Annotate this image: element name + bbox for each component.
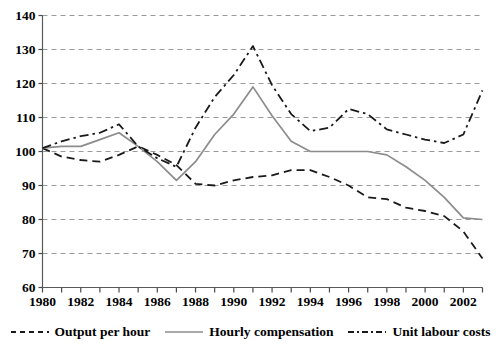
line-chart-plot [0, 0, 500, 344]
legend-label: Output per hour [55, 324, 151, 340]
series-line-unit-labour-costs [43, 46, 483, 167]
legend-item-output-per-hour: Output per hour [10, 324, 151, 340]
y-tick-label: 60 [22, 281, 36, 295]
gridlines-group [43, 16, 483, 254]
y-tick-label: 110 [16, 111, 36, 125]
legend-swatch-dashdot [347, 327, 387, 337]
legend-item-hourly-compensation: Hourly compensation [164, 324, 333, 340]
data-series-group [43, 46, 483, 259]
legend-swatch-dashed [10, 327, 50, 337]
chart-legend: Output per hourHourly compensationUnit l… [0, 320, 500, 344]
y-tick-label: 100 [15, 145, 35, 159]
legend-label: Unit labour costs [392, 324, 490, 340]
y-tick-label: 140 [15, 9, 35, 23]
series-line-hourly-compensation [43, 87, 483, 220]
legend-swatch-solid [164, 327, 204, 337]
series-line-output-per-hour [43, 146, 483, 258]
chart-container: 60708090100110120130140 1980198219841986… [0, 0, 500, 344]
legend-item-unit-labour-costs: Unit labour costs [347, 324, 490, 340]
y-tick-label: 80 [22, 213, 36, 227]
x-tick-label: 2002 [441, 295, 485, 309]
y-tick-label: 120 [15, 77, 35, 91]
y-tick-label: 90 [22, 179, 36, 193]
legend-label: Hourly compensation [209, 324, 333, 340]
axis-ticks-group [39, 16, 483, 293]
y-tick-label: 130 [15, 43, 35, 57]
y-tick-label: 70 [22, 247, 36, 261]
